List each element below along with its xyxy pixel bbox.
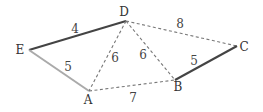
edge-d-b (126, 21, 175, 80)
edge-b-c (175, 46, 237, 80)
node-label-b: B (174, 80, 183, 94)
edge-weight-e-d: 4 (71, 22, 79, 36)
node-label-e: E (16, 43, 25, 57)
node-label-c: C (239, 40, 248, 54)
graph-diagram: 4566875 DEABC (0, 0, 263, 112)
node-label-a: A (83, 93, 93, 107)
edge-d-a (89, 21, 126, 91)
edge-weight-d-b: 6 (139, 48, 147, 62)
edge-a-b (89, 80, 175, 91)
edge-weight-b-c: 5 (190, 54, 198, 68)
edge-weight-d-c: 8 (176, 17, 184, 31)
edge-weight-a-b: 7 (129, 91, 137, 105)
edge-weight-d-a: 6 (111, 51, 119, 65)
node-label-d: D (119, 5, 129, 19)
edge-weight-e-a: 5 (64, 60, 72, 74)
edge-e-a (29, 50, 89, 91)
edges-group (29, 21, 237, 91)
